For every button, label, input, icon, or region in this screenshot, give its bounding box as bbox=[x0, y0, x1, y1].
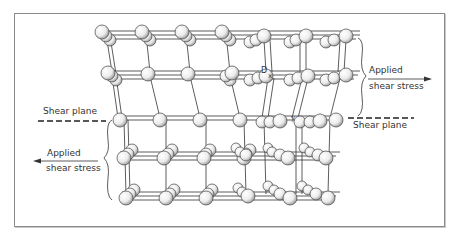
applied-shear-left-label-line1: Applied bbox=[47, 148, 81, 158]
atoms-lower bbox=[113, 113, 343, 205]
shear-plane-left-label: Shear plane bbox=[43, 106, 97, 116]
atom-label-x: x bbox=[268, 72, 272, 80]
crystal-lattice bbox=[0, 0, 460, 238]
atoms-upper bbox=[95, 25, 353, 86]
applied-shear-right-label-line2: shear stress bbox=[369, 81, 424, 91]
atom-label-y: y bbox=[291, 114, 295, 122]
right-brace bbox=[358, 38, 366, 116]
atom-label-d: D bbox=[261, 66, 267, 75]
applied-shear-right-label-line1: Applied bbox=[369, 65, 403, 75]
shear-plane-right-label: Shear plane bbox=[353, 120, 407, 130]
left-brace bbox=[104, 120, 112, 200]
applied-shear-left-label-line2: shear stress bbox=[46, 163, 101, 173]
